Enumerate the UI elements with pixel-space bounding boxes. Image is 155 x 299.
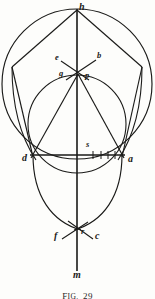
- point-label-g: g: [59, 69, 63, 78]
- arc-d-to-r: [33, 155, 81, 230]
- caption-figure-number: 29: [83, 291, 93, 299]
- point-label-r: r: [81, 227, 84, 236]
- point-label-s: s: [86, 140, 89, 149]
- point-label-b: b: [97, 51, 101, 60]
- point-label-m: m: [73, 270, 81, 280]
- chord-h-left-vertex: [12, 10, 77, 67]
- line-p-to-d: [31, 74, 78, 158]
- point-label-p: p: [85, 71, 89, 80]
- figure-29: h e b g p s d a f r c m FIG. 29: [0, 0, 155, 299]
- point-label-c: c: [95, 231, 99, 241]
- point-label-h: h: [79, 2, 85, 12]
- point-label-e: e: [55, 53, 59, 62]
- chord-h-right-vertex: [77, 10, 142, 67]
- point-label-f: f: [54, 231, 57, 241]
- figure-caption: FIG. 29: [0, 285, 155, 299]
- arc-a-to-r: [74, 155, 122, 230]
- point-label-a: a: [128, 154, 133, 164]
- caption-fig-smallcaps: IG.: [68, 292, 79, 299]
- geometry-canvas: [0, 0, 155, 299]
- line-p-to-a: [78, 74, 124, 158]
- point-label-d: d: [22, 153, 27, 163]
